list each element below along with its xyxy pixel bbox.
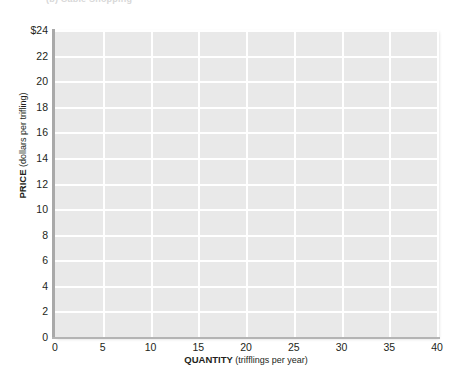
x-tick-label: 25 — [288, 341, 300, 353]
figure-caption: (b) Cable Shopping — [46, 0, 226, 6]
gridline-vertical — [294, 30, 296, 337]
x-axis-title-bold: QUANTITY — [184, 354, 233, 365]
gridline-vertical — [151, 30, 153, 337]
x-tick-label: 20 — [240, 341, 252, 353]
gridline-vertical — [246, 30, 248, 337]
x-tick-label: 30 — [336, 341, 348, 353]
x-axis-tick-labels: 0510152025303540 — [55, 341, 437, 355]
y-tick-label: 8 — [2, 229, 48, 241]
x-axis-spine — [52, 337, 440, 339]
y-axis-title-bold: PRICE — [17, 170, 28, 199]
gridline-vertical — [103, 30, 105, 337]
x-tick-label: 40 — [431, 341, 443, 353]
chart-plot-area — [55, 30, 437, 337]
y-tick-label: 4 — [2, 280, 48, 292]
gridline-vertical — [437, 30, 439, 337]
y-axis-spine — [52, 29, 55, 339]
gridline-vertical — [389, 30, 391, 337]
y-tick-label: 6 — [2, 254, 48, 266]
y-tick-label: 22 — [2, 50, 48, 62]
x-tick-label: 0 — [52, 341, 58, 353]
x-tick-label: 35 — [383, 341, 395, 353]
x-tick-label: 15 — [192, 341, 204, 353]
x-axis-title: QUANTITY (trifflings per year) — [55, 354, 437, 365]
x-tick-label: 5 — [100, 341, 106, 353]
gridline-vertical — [342, 30, 344, 337]
y-axis-title-unit: (dollars per trifling) — [18, 92, 28, 167]
gridline-vertical — [198, 30, 200, 337]
y-tick-label: $24 — [2, 24, 48, 36]
x-tick-label: 10 — [145, 341, 157, 353]
y-tick-label: 2 — [2, 305, 48, 317]
y-tick-label: 0 — [2, 331, 48, 343]
x-axis-title-unit: (trifflings per year) — [235, 355, 307, 365]
y-axis-title: PRICE (dollars per trifling) — [17, 71, 28, 221]
